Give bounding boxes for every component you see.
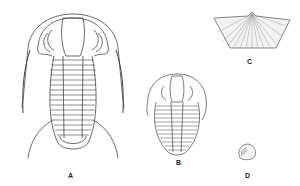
trilobite-b-drawing	[142, 72, 212, 157]
specimen-a-trilobite	[8, 8, 138, 158]
shell-d-drawing	[236, 142, 258, 162]
label-d: D	[245, 172, 250, 179]
brachiopod-c-drawing	[212, 12, 292, 50]
trilobite-a-drawing	[8, 8, 138, 158]
label-c: C	[247, 58, 252, 65]
specimen-b-trilobite	[142, 72, 212, 157]
label-b: B	[176, 159, 181, 166]
label-a: A	[68, 172, 73, 179]
specimen-d-shell	[236, 142, 258, 162]
specimen-c-brachiopod	[212, 12, 292, 50]
